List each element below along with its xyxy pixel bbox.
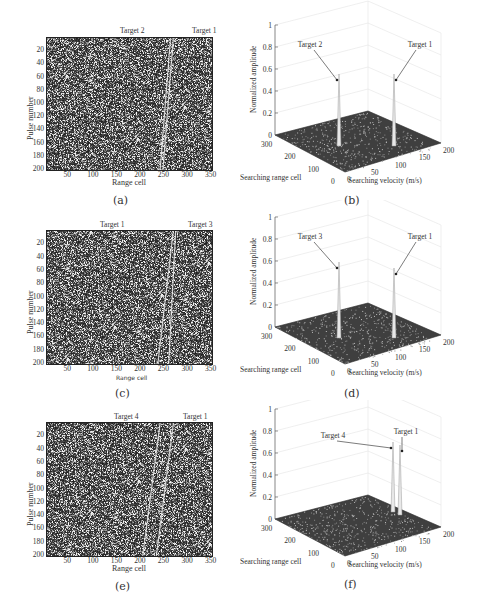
y-tick-label: 140: [33, 511, 44, 519]
velocity-tick-label: 100: [395, 353, 407, 362]
panel-d: 00.20.40.60.81Normalized amplitude300200…: [240, 200, 481, 400]
y-tick-label: 200: [33, 165, 44, 173]
peak-spike: [392, 268, 396, 338]
z-axis-label: Normalized amplitude: [249, 237, 258, 305]
peak-label: Target 1: [408, 40, 433, 49]
z-tick-label: 0.2: [263, 301, 273, 310]
y-ticks: 20406080100120140160180200: [30, 37, 44, 169]
x-tick-label: 350: [205, 171, 216, 179]
range-tick-label: 300: [261, 332, 273, 341]
peak-spike: [398, 445, 402, 515]
y-tick-label: 120: [33, 498, 44, 506]
z-tick-label: 1: [268, 405, 272, 414]
caption: (c): [115, 387, 130, 400]
caption: (f): [344, 578, 357, 591]
peak-spike: [337, 74, 341, 146]
y-tick-label: 80: [37, 86, 45, 94]
x-tick-label: 250: [158, 365, 169, 373]
caption: (d): [344, 387, 360, 400]
z-tick-label: 0.2: [263, 109, 273, 118]
y-tick-label: 20: [37, 431, 45, 439]
z-tick-label: 1: [268, 213, 272, 222]
range-axis-label: Searching range cell: [240, 557, 301, 566]
z-tick-label: 0.8: [263, 235, 273, 244]
z-tick-label: 0.6: [263, 65, 273, 74]
top-label-left: Target 1: [100, 221, 125, 229]
peak-spike: [392, 74, 396, 146]
range-pulse-image: [46, 230, 213, 365]
y-tick-label: 160: [33, 332, 44, 340]
range-pulse-image: [46, 37, 213, 171]
z-tick-label: 0.4: [263, 279, 273, 288]
peak-label: Target 1: [408, 232, 433, 241]
velocity-tick-label: 150: [419, 345, 431, 354]
y-ticks: 20406080100120140160180200: [30, 422, 44, 555]
z-axis-label: Normalized amplitude: [249, 429, 258, 497]
arrow: [396, 242, 416, 274]
range-axis-label: Searching range cell: [240, 173, 301, 182]
range-tick-label: 100: [308, 549, 320, 558]
y-tick-label: 160: [33, 524, 44, 532]
x-axis-label: Range cell: [112, 179, 146, 187]
range-tick-label: 0: [331, 369, 335, 378]
y-tick-label: 80: [37, 471, 45, 479]
range-tick-label: 100: [308, 357, 320, 366]
x-tick-label: 100: [87, 557, 98, 565]
y-tick-label: 80: [37, 279, 45, 287]
peak-spike: [337, 262, 341, 338]
x-tick-label: 100: [87, 171, 98, 179]
panel-c: Target 1 Target 3 Pulse number 204060801…: [0, 200, 240, 400]
panel-e: Target 4 Target 1 Pulse number 204060801…: [0, 400, 240, 614]
z-tick-label: 0: [268, 131, 272, 140]
velocity-tick-label: 200: [443, 338, 455, 347]
panel-f: 00.20.40.60.81Normalized amplitude300200…: [240, 400, 481, 614]
velocity-tick-label: 150: [419, 153, 431, 162]
y-tick-label: 60: [37, 458, 45, 466]
x-tick-label: 350: [205, 365, 216, 373]
peak-label: Target 1: [394, 427, 419, 436]
z-tick-label: 0.6: [263, 257, 273, 266]
z-tick-label: 0.6: [263, 449, 273, 458]
x-tick-label: 300: [181, 171, 192, 179]
top-label-left: Target 2: [120, 27, 145, 35]
arrow: [337, 441, 391, 448]
peak-label: Target 3: [298, 232, 323, 241]
y-tick-label: 40: [37, 445, 45, 453]
range-tick-label: 200: [284, 152, 296, 161]
z-tick-label: 0.2: [263, 493, 273, 502]
y-tick-label: 100: [33, 293, 44, 301]
peak-label: Target 4: [321, 431, 346, 440]
range-tick-label: 100: [308, 165, 320, 174]
range-tick-label: 0: [331, 177, 335, 186]
z-tick-label: 0.8: [263, 43, 273, 52]
range-tick-label: 0: [331, 561, 335, 570]
y-tick-label: 100: [33, 485, 44, 493]
range-pulse-image: [46, 422, 213, 557]
y-tick-label: 120: [33, 306, 44, 314]
y-tick-label: 180: [33, 346, 44, 354]
caption: (e): [115, 580, 130, 593]
y-tick-label: 180: [33, 152, 44, 160]
range-tick-label: 300: [261, 140, 273, 149]
y-tick-label: 60: [37, 73, 45, 81]
noise-canvas: [47, 38, 212, 170]
range-tick-label: 200: [284, 344, 296, 353]
x-axis-label: Range cell: [112, 565, 146, 573]
x-tick-label: 300: [181, 557, 192, 565]
noise-canvas: [47, 231, 212, 364]
y-tick-label: 100: [33, 99, 44, 107]
top-label-left: Target 4: [114, 413, 139, 421]
y-ticks: 20406080100120140160180200: [30, 230, 44, 363]
x-tick-label: 300: [181, 365, 192, 373]
x-tick-label: 150: [111, 365, 122, 373]
velocity-axis-label: Searching velocity (m/s): [348, 560, 422, 569]
top-label-right: Target 3: [188, 221, 213, 229]
y-tick-label: 20: [37, 239, 45, 247]
z-tick-label: 0.4: [263, 471, 273, 480]
velocity-tick-label: 200: [443, 530, 455, 539]
arrow: [314, 50, 337, 80]
peak-label: Target 2: [298, 40, 323, 49]
y-tick-label: 200: [33, 359, 44, 367]
x-tick-label: 250: [158, 171, 169, 179]
x-tick-label: 50: [64, 557, 72, 565]
